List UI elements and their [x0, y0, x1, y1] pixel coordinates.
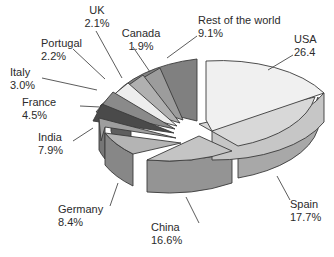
- slice-label-china: China 16.6%: [151, 221, 203, 246]
- leader-line-rest: [167, 36, 197, 58]
- slice-label-china-name: China: [151, 221, 203, 234]
- slice-label-india-name: India: [38, 131, 82, 144]
- slice-label-italy: Italy 3.0%: [10, 66, 54, 91]
- leader-line-spain: [277, 176, 290, 200]
- slice-label-france-value: 4.5%: [22, 109, 80, 122]
- slice-label-usa: USA 26.4: [294, 33, 334, 58]
- slice-label-france-name: France: [22, 96, 80, 109]
- slice-label-india: India 7.9%: [38, 131, 82, 156]
- slice-label-canada: Canada 1.9%: [112, 27, 170, 52]
- slice-label-italy-name: Italy: [10, 66, 54, 79]
- slice-label-rest-of-the-world-name: Rest of the world: [198, 14, 310, 27]
- leader-line-china: [186, 197, 199, 223]
- slice-label-usa-value: 26.4: [294, 46, 334, 59]
- slice-label-spain-name: Spain: [290, 198, 334, 211]
- slice-label-india-value: 7.9%: [38, 144, 82, 157]
- slice-label-germany: Germany 8.4%: [58, 203, 124, 228]
- slice-label-uk-name: UK: [76, 4, 118, 17]
- slice-label-canada-value: 1.9%: [112, 40, 170, 53]
- leader-line-usa: [268, 55, 293, 70]
- slice-label-portugal-value: 2.2%: [41, 50, 103, 63]
- slice-label-portugal: Portugal 2.2%: [41, 37, 103, 62]
- slice-label-spain: Spain 17.7%: [290, 198, 334, 223]
- slice-label-usa-name: USA: [294, 33, 334, 46]
- pie-chart-figure: UK 2.1% Canada 1.9% Rest of the world 9.…: [0, 0, 334, 257]
- slice-label-germany-name: Germany: [58, 203, 124, 216]
- slice-label-france: France 4.5%: [22, 96, 80, 121]
- slice-label-germany-value: 8.4%: [58, 216, 124, 229]
- slice-label-china-value: 16.6%: [151, 234, 203, 247]
- slice-label-canada-name: Canada: [112, 27, 170, 40]
- leader-line-france: [80, 106, 100, 107]
- slice-label-spain-value: 17.7%: [290, 211, 334, 224]
- slice-label-italy-value: 3.0%: [10, 79, 54, 92]
- slice-label-uk: UK 2.1%: [76, 4, 118, 29]
- slice-label-portugal-name: Portugal: [41, 37, 103, 50]
